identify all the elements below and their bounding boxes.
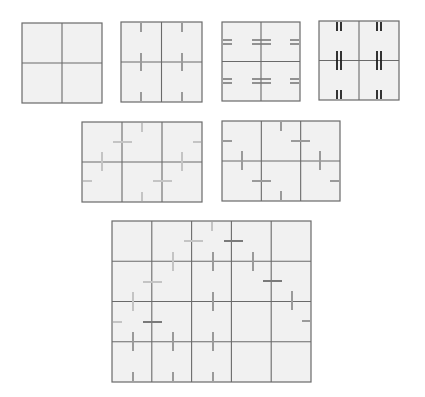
panel-3x2-mid-marks [222,121,340,201]
panel-2x2-double-horizontal [222,22,300,101]
panel-5x4-mixed-marks [112,221,311,382]
panel-2x2-vertical-ticks [121,22,202,102]
panel-2x2-empty [22,23,102,103]
panel-2x2-double-vertical [319,21,399,100]
diagram-canvas [0,0,425,397]
panel-3x2-light-marks [82,122,202,202]
